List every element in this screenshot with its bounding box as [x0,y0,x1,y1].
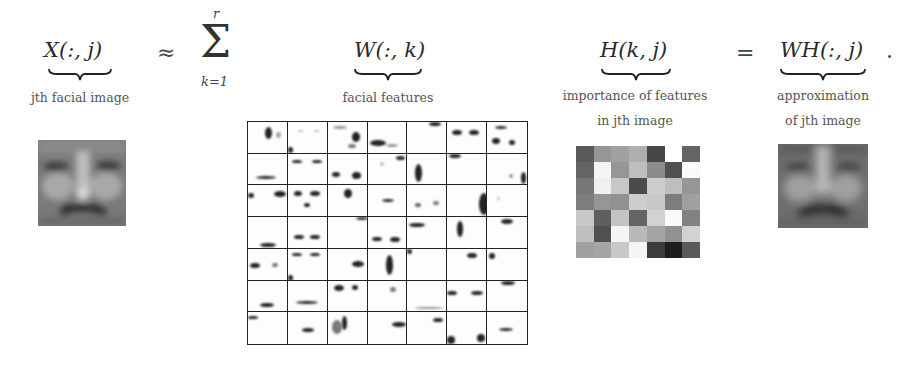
summation-icon: Σ [200,20,231,64]
matrix-cell [594,242,612,258]
matrix-cell [665,194,683,210]
feature-cell [368,154,408,186]
matrix-cell [611,162,629,178]
feature-cell [288,122,328,154]
equals-operator: = [736,40,754,65]
feature-cell [248,249,288,281]
w-symbol-text: W(:, k) [354,38,425,62]
feature-cell [288,217,328,249]
matrix-cell [576,194,594,210]
matrix-cell [611,210,629,226]
rhs-symbol: WH(:, j) [780,38,863,62]
matrix-cell [647,162,665,178]
lhs-symbol-text: X(:, j) [44,38,102,62]
matrix-cell [647,226,665,242]
matrix-cell [665,210,683,226]
matrix-cell [665,178,683,194]
matrix-cell [611,194,629,210]
matrix-cell [594,210,612,226]
feature-cell [288,312,328,344]
matrix-cell [647,178,665,194]
feature-cell [447,185,487,217]
feature-cell [447,122,487,154]
feature-cell [407,185,447,217]
feature-cell [487,312,527,344]
matrix-cell [682,242,700,258]
feature-cell [407,217,447,249]
feature-cell [328,249,368,281]
feature-cell [487,185,527,217]
feature-cell [407,154,447,186]
feature-cell [407,281,447,313]
feature-cell [368,312,408,344]
feature-cell [248,185,288,217]
rhs-symbol-text: WH(:, j) [780,38,863,62]
feature-cell [288,281,328,313]
matrix-cell [594,194,612,210]
h-caption-line2: in jth image [548,113,722,128]
w-caption: facial features [328,90,448,105]
feature-cell [447,281,487,313]
matrix-cell [665,226,683,242]
matrix-cell [665,242,683,258]
matrix-cell [594,162,612,178]
feature-cell [447,217,487,249]
rhs-caption-line1: approximation [763,88,883,103]
feature-cell [328,154,368,186]
matrix-cell [682,226,700,242]
matrix-cell [647,210,665,226]
rhs-underbrace-icon [780,68,866,82]
sum-lower-limit: k=1 [201,74,228,89]
feature-cell [328,281,368,313]
feature-cell [407,249,447,281]
feature-cell [328,217,368,249]
h-symbol-text: H(k, j) [600,38,667,62]
matrix-cell [647,242,665,258]
matrix-cell [594,178,612,194]
approx-operator: ≈ [157,40,175,65]
feature-cell [248,312,288,344]
approximated-face-image [778,144,868,228]
feature-cell [487,217,527,249]
w-symbol: W(:, k) [354,38,425,62]
feature-cell [447,154,487,186]
feature-cell [368,185,408,217]
matrix-cell [647,146,665,162]
feature-cell [288,249,328,281]
matrix-cell [665,162,683,178]
matrix-cell [629,210,647,226]
lhs-underbrace-icon [48,68,112,82]
matrix-cell [629,194,647,210]
matrix-cell [611,226,629,242]
matrix-cell [576,178,594,194]
feature-cell [288,185,328,217]
feature-basis-grid [247,121,528,345]
feature-cell [487,154,527,186]
matrix-cell [611,178,629,194]
feature-cell [447,312,487,344]
feature-cell [368,249,408,281]
rhs-caption-line2: of jth image [763,113,883,128]
feature-cell [248,217,288,249]
lhs-symbol: X(:, j) [44,38,102,62]
lhs-caption: jth facial image [20,90,140,105]
feature-cell [248,122,288,154]
feature-cell [288,154,328,186]
matrix-cell [576,162,594,178]
feature-cell [407,312,447,344]
matrix-cell [594,226,612,242]
matrix-cell [629,146,647,162]
feature-cell [487,249,527,281]
feature-cell [328,122,368,154]
feature-cell [487,122,527,154]
feature-cell [447,249,487,281]
matrix-cell [576,146,594,162]
matrix-cell [647,194,665,210]
matrix-cell [629,178,647,194]
original-face-image [38,140,126,226]
feature-cell [368,122,408,154]
h-symbol: H(k, j) [600,38,667,62]
matrix-cell [682,210,700,226]
feature-cell [248,281,288,313]
matrix-cell [682,162,700,178]
